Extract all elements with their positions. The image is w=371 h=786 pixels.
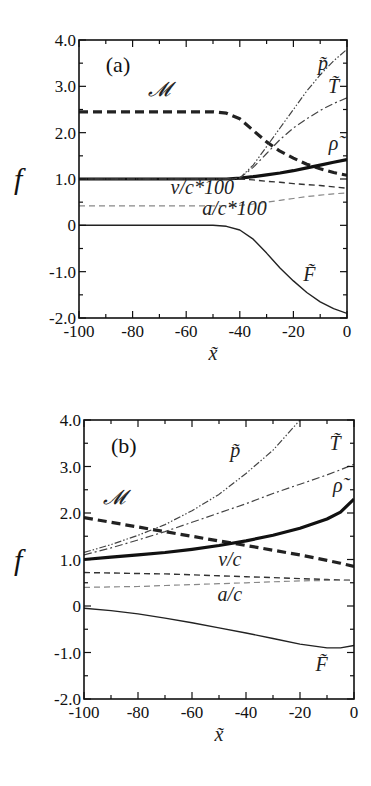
y-tick-label: 2.0 [55, 124, 76, 143]
series-label-v: v/c [218, 548, 241, 570]
y-tick-label: -1.0 [54, 644, 81, 663]
series-label-M: 𝓜 [103, 486, 132, 508]
y-tick-label: 0 [73, 597, 82, 616]
y-tick-label: 0 [68, 216, 77, 235]
y-tick-label: 1.0 [55, 170, 76, 189]
panel-label: (a) [106, 52, 130, 77]
line-v [84, 573, 354, 581]
panel-label: (b) [111, 433, 137, 458]
series-label-M: 𝓜 [148, 78, 177, 100]
y-tick-label: -2.0 [54, 690, 81, 709]
y-tick-label: 1.0 [60, 551, 81, 570]
series-label-F: F̃ [314, 653, 328, 675]
line-T [84, 464, 354, 555]
x-tick-label: -20 [289, 703, 312, 722]
y-tick-label: 2.0 [60, 504, 81, 523]
line-F [84, 608, 354, 648]
series-label-a: a/c [218, 583, 243, 605]
series-label-T: T̃ [330, 432, 343, 454]
x-tick-label: 0 [343, 322, 352, 341]
y-tick-label: 4.0 [55, 31, 76, 50]
x-tick-label: -80 [127, 703, 150, 722]
x-axis-label: x̃ [214, 723, 224, 745]
series-label-F: F̃ [302, 263, 316, 285]
x-tick-label: -20 [282, 322, 305, 341]
panel-b: -100-80-60-40-200-2.0-1.001.02.03.04.0fx… [14, 392, 358, 745]
y-tick-label: 3.0 [60, 458, 81, 477]
panel-a: -100-80-60-40-200-2.0-1.001.02.03.04.0fx… [14, 31, 351, 364]
series-label-v: v/c*100 [171, 176, 234, 198]
y-axis-label: f [14, 543, 26, 576]
series-label-p: p̃ [228, 439, 240, 462]
series-label-a: a/c*100 [202, 197, 266, 219]
series-label-rho: ρ̃ [332, 474, 351, 497]
y-tick-label: -2.0 [49, 309, 76, 328]
series-group [84, 392, 354, 648]
x-tick-label: 0 [350, 703, 359, 722]
x-axis-label: x̃ [208, 342, 218, 364]
x-tick-label: -60 [175, 322, 198, 341]
series-label-p: p̃ [316, 52, 328, 75]
figure: -100-80-60-40-200-2.0-1.001.02.03.04.0fx… [0, 0, 371, 786]
x-tick-label: -60 [181, 703, 204, 722]
series-label-T: T̃ [328, 75, 341, 97]
y-tick-label: -1.0 [49, 263, 76, 282]
line-p [84, 392, 308, 552]
y-tick-label: 3.0 [55, 77, 76, 96]
y-axis-label: f [14, 162, 26, 195]
y-tick-label: 4.0 [60, 411, 81, 430]
line-M [79, 112, 347, 176]
x-tick-label: -80 [121, 322, 144, 341]
series-label-rho: ρ̃ [328, 132, 347, 155]
x-tick-label: -40 [228, 322, 251, 341]
x-tick-label: -40 [235, 703, 258, 722]
